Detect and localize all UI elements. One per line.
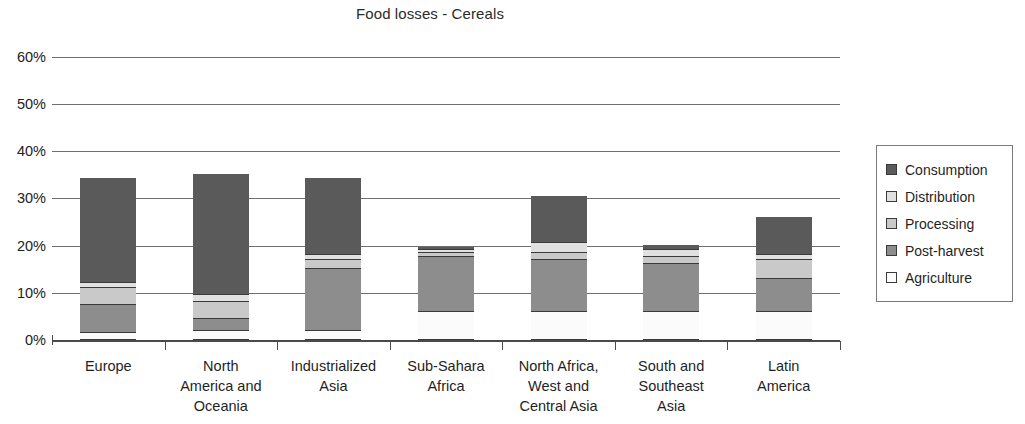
bar-segment-distribution[interactable] [418, 250, 474, 252]
bar-segment-post-harvest[interactable] [193, 319, 249, 331]
bar-segment-distribution[interactable] [756, 255, 812, 260]
legend-item-processing[interactable]: Processing [886, 210, 1006, 237]
y-axis-tick-label: 60% [2, 49, 46, 65]
gridline [52, 198, 840, 199]
x-axis-category-label-line: North Africa, [500, 356, 618, 376]
legend-swatch-icon [886, 191, 897, 202]
bar-segment-agriculture[interactable] [193, 331, 249, 340]
bar-segment-post-harvest[interactable] [418, 257, 474, 311]
bar-segment-agriculture[interactable] [531, 312, 587, 340]
legend-swatch-icon [886, 164, 897, 175]
legend-item-label: Agriculture [905, 270, 972, 286]
x-axis-tick [727, 341, 728, 350]
bar-segment-processing[interactable] [643, 257, 699, 264]
legend-item-label: Post-harvest [905, 243, 984, 259]
bar-segment-processing[interactable] [418, 253, 474, 258]
legend-swatch-icon [886, 272, 897, 283]
bar-segment-distribution[interactable] [80, 283, 136, 288]
x-axis-category-label: Europe [49, 356, 167, 376]
bar-segment-processing[interactable] [80, 288, 136, 305]
legend-item-post-harvest[interactable]: Post-harvest [886, 237, 1006, 264]
legend-item-agriculture[interactable]: Agriculture [886, 264, 1006, 291]
x-axis-line [52, 340, 840, 342]
legend-item-label: Processing [905, 216, 974, 232]
gridline [52, 57, 840, 58]
x-axis-category-label-line: West and [500, 376, 618, 396]
x-axis-category-label-line: Oceania [162, 396, 280, 416]
x-axis-category-label-line: Latin [725, 356, 843, 376]
bar-segment-consumption[interactable] [418, 247, 474, 250]
y-axis-tick-label: 0% [2, 332, 46, 348]
x-axis-category-label-line: Asia [274, 376, 392, 396]
x-axis-category-label-line: Industrialized [274, 356, 392, 376]
x-axis-tick [165, 341, 166, 350]
x-axis-category-label: Sub-SaharaAfrica [387, 356, 505, 396]
y-axis-tick-label: 30% [2, 190, 46, 206]
bar-north-america-and-oceania[interactable] [193, 174, 249, 340]
x-axis-category-label-line: North [162, 356, 280, 376]
bar-sub-sahara-africa[interactable] [418, 247, 474, 340]
x-axis-category-label-line: Sub-Sahara [387, 356, 505, 376]
legend-swatch-icon [886, 245, 897, 256]
y-axis-tick-label: 50% [2, 96, 46, 112]
chart-title: Food losses - Cereals [0, 5, 860, 22]
x-axis-tick [615, 341, 616, 350]
x-axis-category-label: NorthAmerica andOceania [162, 356, 280, 416]
bar-segment-processing[interactable] [756, 260, 812, 279]
bar-segment-consumption[interactable] [80, 178, 136, 283]
bar-segment-distribution[interactable] [643, 250, 699, 257]
bar-south-and-southeast-asia[interactable] [643, 245, 699, 340]
x-axis-category-label-line: Asia [612, 396, 730, 416]
bar-segment-processing[interactable] [531, 253, 587, 260]
bar-segment-distribution[interactable] [531, 243, 587, 252]
bar-segment-distribution[interactable] [193, 295, 249, 302]
gridline [52, 104, 840, 105]
gridline [52, 246, 840, 247]
gridline [52, 151, 840, 152]
legend-item-distribution[interactable]: Distribution [886, 183, 1006, 210]
y-axis-tick-label: 10% [2, 285, 46, 301]
legend-swatch-icon [886, 218, 897, 229]
x-axis-category-label-line: Africa [387, 376, 505, 396]
bar-segment-post-harvest[interactable] [643, 264, 699, 311]
bar-north-africa-west-and-central-asia[interactable] [531, 196, 587, 340]
bar-segment-agriculture[interactable] [756, 312, 812, 340]
chart-legend: ConsumptionDistributionProcessingPost-ha… [876, 145, 1013, 302]
bar-segment-agriculture[interactable] [418, 312, 474, 340]
bar-segment-consumption[interactable] [305, 178, 361, 255]
bar-segment-agriculture[interactable] [80, 333, 136, 340]
x-axis-category-label: South andSoutheastAsia [612, 356, 730, 416]
bar-segment-consumption[interactable] [643, 245, 699, 250]
x-axis-category-label-line: America [725, 376, 843, 396]
bar-segment-processing[interactable] [193, 302, 249, 319]
x-axis-category-label-line: South and [612, 356, 730, 376]
bar-segment-post-harvest[interactable] [305, 269, 361, 330]
legend-item-consumption[interactable]: Consumption [886, 156, 1006, 183]
x-axis-tick [277, 341, 278, 350]
bar-segment-consumption[interactable] [193, 174, 249, 295]
bar-segment-agriculture[interactable] [305, 331, 361, 340]
x-axis-tick [502, 341, 503, 350]
y-axis: 0%10%20%30%40%50%60% [0, 0, 46, 424]
bar-industrialized-asia[interactable] [305, 178, 361, 340]
chart-figure: Food losses - Cereals 0%10%20%30%40%50%6… [0, 0, 1025, 424]
legend-item-label: Distribution [905, 189, 975, 205]
bar-segment-post-harvest[interactable] [531, 260, 587, 312]
x-axis-category-label-line: Central Asia [500, 396, 618, 416]
x-axis-category-label: North Africa,West andCentral Asia [500, 356, 618, 416]
bar-segment-distribution[interactable] [305, 255, 361, 260]
bar-segment-agriculture[interactable] [643, 312, 699, 340]
y-axis-origin-tick [52, 335, 53, 345]
bar-segment-consumption[interactable] [531, 196, 587, 243]
bar-latin-america[interactable] [756, 217, 812, 340]
bar-segment-post-harvest[interactable] [80, 305, 136, 333]
bar-europe[interactable] [80, 178, 136, 340]
x-axis-category-label-line: Europe [49, 356, 167, 376]
bar-segment-post-harvest[interactable] [756, 279, 812, 312]
x-axis-category-label: IndustrializedAsia [274, 356, 392, 396]
x-axis-tick [390, 341, 391, 350]
bar-segment-processing[interactable] [305, 260, 361, 269]
x-axis-category-label-line: Southeast [612, 376, 730, 396]
bar-segment-consumption[interactable] [756, 217, 812, 255]
x-axis-category-label-line: America and [162, 376, 280, 396]
